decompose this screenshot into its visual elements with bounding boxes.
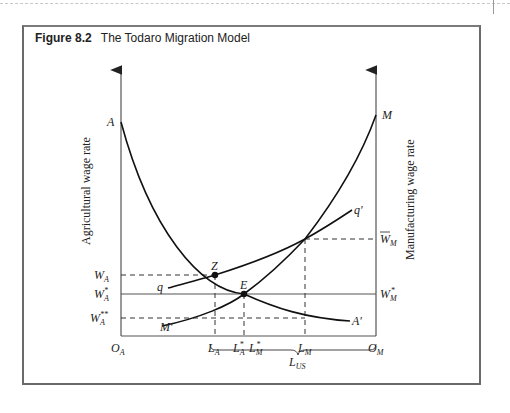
label-q-prime: q′ (354, 203, 363, 217)
label-Z: Z (211, 259, 218, 273)
label-WA-2star: WA** (90, 310, 108, 327)
label-LM: LM (297, 341, 313, 357)
left-axis-title: Agricultural wage rate (79, 137, 93, 245)
label-OM: OM (368, 341, 385, 357)
curve-AA (121, 122, 350, 321)
label-M-prime: M′ (159, 320, 173, 334)
label-A: A (106, 115, 115, 129)
label-WM-star: WM* (380, 286, 398, 303)
label-LUS: LUS (288, 355, 305, 371)
label-A-prime: A′ (351, 314, 362, 328)
label-LA-star: LA* (232, 340, 245, 357)
todaro-diagram: A M q′ q M′ A′ Z E WA WA* WA** WM WM* OA… (0, 0, 510, 413)
label-WM-bar: WM (380, 232, 398, 248)
label-WA-star: WA* (94, 286, 109, 303)
label-M: M (381, 108, 393, 122)
label-LM-star: LM* (248, 340, 264, 357)
label-WA: WA (94, 268, 109, 284)
curve-qq (168, 210, 352, 288)
right-axis-title: Manufacturing wage rate (403, 139, 417, 260)
label-E: E (239, 278, 248, 292)
label-OA: OA (111, 341, 125, 357)
label-q: q (157, 280, 163, 294)
label-LA: LA (207, 341, 220, 357)
